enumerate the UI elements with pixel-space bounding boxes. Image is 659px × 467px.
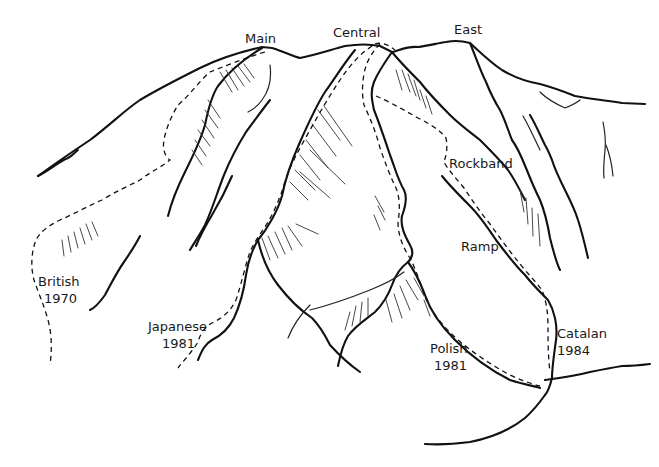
mountain-diagram: Main Central East Rockband Ramp British … bbox=[0, 0, 659, 467]
summit-label-main: Main bbox=[245, 30, 276, 47]
route-label-british: British 1970 bbox=[38, 273, 80, 307]
route-year: 1970 bbox=[38, 290, 80, 307]
left-spur bbox=[190, 100, 270, 250]
rockband-ridge bbox=[392, 52, 525, 200]
route-label-polish: Polish 1981 bbox=[430, 340, 468, 374]
mountain-drawing bbox=[0, 0, 659, 467]
japanese-spur bbox=[198, 50, 355, 360]
feature-label-rockband: Rockband bbox=[449, 155, 513, 172]
east-gully-c bbox=[523, 116, 540, 150]
route-year: 1984 bbox=[557, 342, 607, 359]
route-year: 1981 bbox=[148, 335, 207, 352]
route-year: 1981 bbox=[430, 357, 468, 374]
polish-pillar bbox=[338, 262, 408, 366]
polish-pillar-right bbox=[408, 262, 540, 388]
feature-label-ramp: Ramp bbox=[461, 238, 499, 255]
pillar-inner-line bbox=[288, 305, 310, 338]
east-gully-b bbox=[606, 145, 613, 176]
catalan-base bbox=[545, 364, 650, 380]
skyline-ridge bbox=[38, 41, 645, 176]
main-buttress-ridge bbox=[168, 48, 262, 216]
route-japanese bbox=[178, 46, 372, 368]
left-ridge bbox=[38, 150, 78, 176]
base-curve bbox=[425, 395, 545, 444]
route-name: Polish bbox=[430, 341, 468, 356]
summit-label-central: Central bbox=[333, 24, 380, 41]
east-gully bbox=[603, 122, 605, 178]
route-name: British bbox=[38, 274, 80, 289]
route-label-japanese: Japanese 1981 bbox=[148, 318, 207, 352]
route-name: Japanese bbox=[148, 319, 207, 334]
left-gully bbox=[196, 176, 232, 246]
lower-left-spur bbox=[90, 236, 140, 310]
summit-label-east: East bbox=[454, 21, 482, 38]
east-small-arc bbox=[540, 92, 580, 108]
east-right-ridge bbox=[530, 115, 588, 258]
central-spur bbox=[372, 52, 412, 262]
route-rockband bbox=[376, 96, 550, 372]
route-name: Catalan bbox=[557, 326, 607, 341]
route-label-catalan: Catalan 1984 bbox=[557, 325, 607, 359]
